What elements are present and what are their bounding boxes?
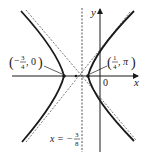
directrix-denominator: 8 [75,140,79,148]
hyperbola-diagram: y x 0 ( − 3 4 , 0 ) ( 1 4 , π ) x = − 3 … [0,0,149,157]
right-vertex-label: ( 1 4 , π ) [107,54,136,71]
left-vertex-denominator: 4 [21,63,25,71]
directrix-label: x = − 3 8 [49,131,80,148]
x-axis-label: x [133,76,139,88]
directrix-label-prefix: x = − [49,133,73,144]
center-point [75,75,78,78]
left-vertex-point [62,74,66,78]
left-vertex-sign: − [14,55,20,66]
left-vertex-rest: , 0 [26,56,36,67]
left-vertex-label: ( − 3 4 , 0 ) [9,54,43,71]
origin-label: 0 [103,77,108,88]
directrix-numerator: 3 [75,131,79,139]
right-vertex-denominator: 4 [113,63,117,71]
y-axis-label: y [90,6,96,18]
asymptote-1 [26,10,136,140]
right-vertex-pointer [90,66,107,74]
right-vertex-numerator: 1 [113,54,117,62]
right-vertex-rest: , π [118,56,129,67]
left-vertex-pointer [44,66,62,74]
left-vertex-close-paren: ) [38,55,43,71]
right-vertex-open-paren: ( [107,55,112,71]
right-vertex-close-paren: ) [131,55,136,71]
left-vertex-numerator: 3 [21,54,25,62]
right-vertex-point [86,74,90,78]
